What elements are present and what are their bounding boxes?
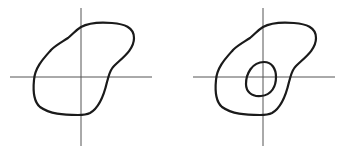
figure-right-region-with-hole (193, 8, 335, 146)
diagram-canvas: Two planar regions drawn on crossed coor… (0, 0, 341, 153)
figure-left-simply-connected-region (10, 8, 152, 146)
left-outer-boundary-curve (34, 22, 134, 115)
right-outer-boundary-curve (216, 22, 316, 115)
right-inner-hole-curve (246, 62, 276, 96)
diagram-svg (0, 0, 341, 153)
